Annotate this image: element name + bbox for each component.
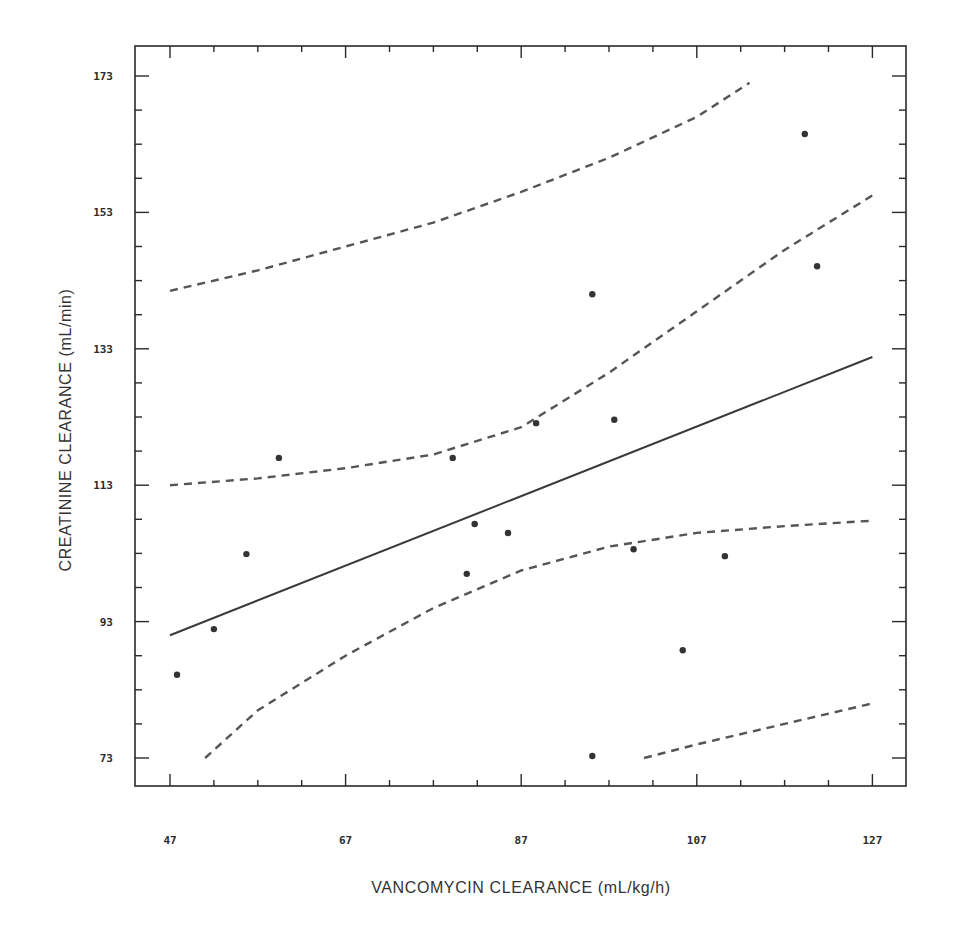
data-point: [450, 455, 456, 461]
y-tick-label: 153: [93, 206, 113, 219]
y-tick-label: 73: [100, 752, 113, 765]
data-point: [533, 420, 539, 426]
data-point: [276, 455, 282, 461]
x-tick-label: 87: [515, 834, 528, 847]
axis-ticks: [135, 46, 906, 786]
lower-confidence-band: [205, 521, 872, 758]
data-points: [174, 131, 820, 759]
x-tick-label: 107: [687, 834, 707, 847]
data-point: [589, 753, 595, 759]
fit-and-bands: [170, 83, 872, 758]
data-point: [814, 263, 820, 269]
x-tick-label: 47: [163, 834, 176, 847]
data-point: [680, 647, 686, 653]
y-tick-label: 133: [93, 343, 113, 356]
plot-frame: [135, 46, 906, 786]
y-tick-labels: 7393113133153173: [93, 70, 113, 765]
data-point: [611, 417, 617, 423]
lower-prediction-band: [644, 703, 872, 758]
data-point: [471, 521, 477, 527]
data-point: [174, 672, 180, 678]
data-point: [802, 131, 808, 137]
y-tick-label: 113: [93, 479, 113, 492]
data-point: [630, 546, 636, 552]
x-tick-label: 127: [862, 834, 882, 847]
data-point: [722, 553, 728, 559]
data-point: [243, 551, 249, 557]
y-tick-label: 173: [93, 70, 113, 83]
plot-border: [135, 46, 906, 786]
x-axis-title: VANCOMYCIN CLEARANCE (mL/kg/h): [371, 879, 671, 896]
y-axis-title: CREATININE CLEARANCE (mL/min): [57, 289, 74, 572]
data-point: [589, 291, 595, 297]
data-point: [211, 626, 217, 632]
upper-prediction-band: [170, 83, 750, 291]
x-tick-label: 67: [339, 834, 352, 847]
y-tick-label: 93: [100, 616, 113, 629]
upper-confidence-band: [170, 195, 872, 485]
data-point: [464, 571, 470, 577]
scatter-chart: 476787107127 7393113133153173 VANCOMYCIN…: [0, 0, 954, 937]
regression-line: [170, 357, 872, 635]
data-point: [505, 530, 511, 536]
x-tick-labels: 476787107127: [163, 834, 882, 847]
